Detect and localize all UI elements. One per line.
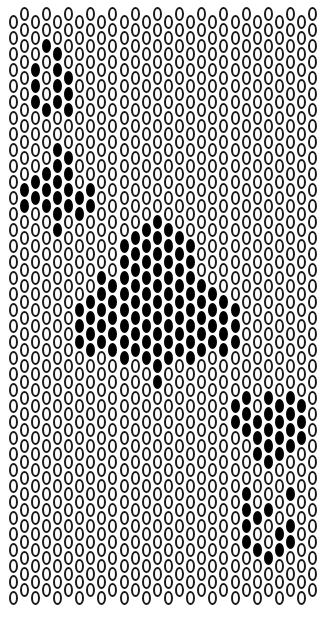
bead-filled [20,199,29,213]
bead-empty [120,559,129,573]
bead-empty [308,87,317,101]
bead-filled [197,327,206,341]
bead-empty [231,559,240,573]
bead-empty [75,79,84,93]
bead-empty [175,199,184,213]
bead-empty [308,7,317,21]
bead-empty [231,463,240,477]
bead-empty [97,47,106,61]
bead-empty [231,15,240,29]
bead-empty [308,119,317,133]
bead-empty [42,567,51,581]
bead-empty [20,359,29,373]
bead-empty [286,23,295,37]
bead-empty [197,439,206,453]
bead-empty [142,463,151,477]
bead-empty [108,135,117,149]
bead-empty [297,271,306,285]
bead-filled [97,287,106,301]
bead-empty [297,63,306,77]
bead-empty [108,423,117,437]
bead-empty [297,527,306,541]
bead-filled [142,287,151,301]
bead-empty [108,23,117,37]
bead-filled [175,263,184,277]
bead-empty [108,455,117,469]
bead-empty [75,175,84,189]
bead-empty [20,487,29,501]
bead-empty [219,7,228,21]
bead-empty [153,55,162,69]
bead-empty [253,223,262,237]
bead-empty [108,7,117,21]
bead-empty [264,39,273,53]
bead-filled [31,79,40,93]
bead-filled [164,303,173,317]
bead-empty [297,319,306,333]
bead-empty [53,591,62,605]
bead-filled [142,239,151,253]
bead-empty [153,439,162,453]
bead-empty [297,127,306,141]
bead-empty [175,167,184,181]
bead-empty [31,527,40,541]
bead-filled [242,535,251,549]
bead-empty [42,55,51,69]
bead-empty [64,487,73,501]
bead-empty [131,487,140,501]
bead-empty [42,247,51,261]
bead-empty [275,207,284,221]
bead-filled [120,287,129,301]
bead-empty [53,15,62,29]
bead-empty [242,439,251,453]
bead-filled [53,175,62,189]
bead-empty [108,231,117,245]
bead-empty [308,359,317,373]
bead-empty [231,575,240,589]
bead-empty [208,367,217,381]
bead-filled [208,335,217,349]
bead-empty [164,447,173,461]
bead-empty [153,455,162,469]
bead-empty [97,399,106,413]
bead-empty [53,463,62,477]
bead-empty [164,383,173,397]
bead-filled [286,423,295,437]
bead-empty [208,15,217,29]
bead-filled [286,487,295,501]
bead-empty [186,79,195,93]
bead-filled [275,431,284,445]
bead-empty [20,375,29,389]
bead-filled [242,503,251,517]
bead-filled [153,279,162,293]
bead-empty [9,223,18,237]
bead-empty [275,223,284,237]
bead-empty [86,119,95,133]
bead-empty [64,471,73,485]
bead-empty [53,479,62,493]
bead-empty [75,463,84,477]
bead-empty [219,391,228,405]
bead-filled [208,319,217,333]
bead-filled [64,103,73,117]
bead-filled [142,255,151,269]
bead-empty [42,423,51,437]
bead-empty [208,511,217,525]
bead-empty [31,159,40,173]
bead-filled [175,311,184,325]
bead-empty [9,303,18,317]
bead-empty [64,135,73,149]
bead-empty [31,463,40,477]
bead-empty [42,87,51,101]
bead-empty [153,551,162,565]
bead-filled [231,415,240,429]
bead-empty [197,551,206,565]
bead-empty [219,183,228,197]
bead-empty [97,447,106,461]
bead-empty [120,367,129,381]
bead-empty [64,567,73,581]
bead-empty [97,495,106,509]
bead-empty [86,359,95,373]
bead-empty [64,519,73,533]
bead-empty [153,535,162,549]
